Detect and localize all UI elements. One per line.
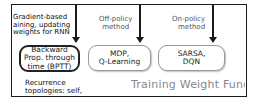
gradient-based-label: Gradient-based aining, updating weights …	[13, 14, 70, 37]
arrow-to-mdp	[139, 4, 141, 38]
arrowhead-icon	[209, 37, 217, 43]
section-title: Training Weight Funct	[131, 78, 245, 91]
note-line: topologies: self,	[25, 87, 82, 95]
off-policy-label: Off-policy method	[99, 16, 132, 31]
box-line: time (BPTT)	[24, 63, 75, 72]
bptt-box: Backward Prop. through time (BPTT)	[19, 45, 80, 72]
arrowhead-icon	[72, 37, 80, 43]
recurrence-note: Recurrence topologies: self,	[25, 79, 82, 94]
arrow-to-bptt	[75, 4, 77, 38]
on-policy-label: On-policy method	[172, 16, 205, 31]
label-line: method	[99, 24, 132, 32]
box-line: Q-Learning	[99, 58, 140, 67]
arrowhead-icon	[136, 37, 144, 43]
label-line: method	[172, 24, 205, 32]
box-line: DQN	[178, 58, 206, 67]
arrow-to-sarsa	[212, 4, 214, 38]
sarsa-dqn-box: SARSA, DQN	[158, 45, 225, 71]
mdp-qlearning-box: MDP, Q-Learning	[88, 45, 151, 71]
label-line: weights for RNN	[13, 29, 70, 37]
